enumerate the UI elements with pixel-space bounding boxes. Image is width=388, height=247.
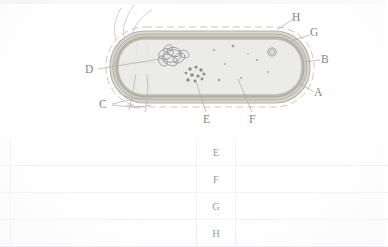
diagram-label-F: F [249, 114, 256, 126]
row-notes-cell[interactable] [236, 193, 388, 220]
diagram-label-D: D [85, 64, 94, 76]
answer-table-body: E F G H [0, 139, 388, 247]
table-row[interactable]: G [0, 193, 388, 220]
answer-table-wrap: E F G H [0, 139, 385, 245]
table-row[interactable]: E [0, 139, 388, 166]
row-answer-cell[interactable] [11, 139, 197, 166]
diagram-label-C: C [99, 99, 107, 111]
row-lead-cell [0, 139, 11, 166]
row-key-cell: F [197, 166, 236, 193]
row-notes-cell[interactable] [236, 139, 388, 166]
table-row[interactable]: H [0, 220, 388, 247]
row-key-cell: E [197, 139, 236, 166]
diagram-label-A: A [314, 87, 323, 99]
row-notes-cell[interactable] [236, 166, 388, 193]
cytoplasm-region [119, 40, 302, 95]
table-row[interactable]: F [0, 166, 388, 193]
cell-diagram-svg [0, 0, 385, 140]
diagram-label-G: G [310, 27, 319, 39]
row-answer-cell[interactable] [11, 193, 197, 220]
row-lead-cell [0, 166, 11, 193]
diagram-label-B: B [321, 54, 329, 66]
row-key-cell: G [197, 193, 236, 220]
row-answer-cell[interactable] [11, 220, 197, 247]
row-lead-cell [0, 193, 11, 220]
diagram-label-E: E [203, 114, 210, 126]
answer-table: E F G H [0, 139, 388, 247]
bacterial-cell-diagram: A B C D E F G H [0, 0, 385, 140]
diagram-label-H: H [292, 12, 301, 24]
row-answer-cell[interactable] [11, 166, 197, 193]
row-key-cell: H [197, 220, 236, 247]
row-notes-cell[interactable] [236, 220, 388, 247]
leader-H [277, 19, 293, 30]
row-lead-cell [0, 220, 11, 247]
